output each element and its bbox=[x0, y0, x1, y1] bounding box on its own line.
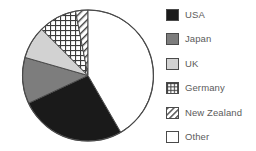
legend-item-japan[interactable]: Japan bbox=[166, 32, 256, 46]
legend-label-usa: USA bbox=[185, 9, 205, 21]
diagonal-hatch-swatch bbox=[166, 107, 179, 119]
pie-slices-group bbox=[23, 10, 154, 141]
pie-chart-svg bbox=[0, 0, 160, 151]
grid-dots-swatch bbox=[166, 82, 179, 94]
solid-light-gray-swatch bbox=[166, 58, 179, 70]
legend-label-new-zealand: New Zealand bbox=[185, 107, 242, 119]
grid-dots-pattern-icon bbox=[167, 83, 179, 94]
legend-item-germany[interactable]: Germany bbox=[166, 81, 256, 95]
chart-legend: USA Japan UK Germany New Zealand bbox=[166, 8, 256, 144]
legend-label-other: Other bbox=[185, 131, 209, 143]
legend-label-uk: UK bbox=[185, 58, 198, 70]
solid-white-swatch bbox=[166, 131, 179, 143]
legend-item-new-zealand[interactable]: New Zealand bbox=[166, 106, 256, 120]
pie-chart-figure: USA Japan UK Germany New Zealand bbox=[0, 0, 256, 151]
pie-chart-plot-area bbox=[0, 0, 160, 151]
solid-gray-swatch bbox=[166, 33, 179, 45]
legend-label-japan: Japan bbox=[185, 33, 211, 45]
solid-black-swatch bbox=[166, 9, 179, 21]
legend-item-usa[interactable]: USA bbox=[166, 8, 256, 22]
diagonal-hatch-pattern-icon bbox=[167, 108, 179, 119]
legend-item-other[interactable]: Other bbox=[166, 130, 256, 144]
legend-item-uk[interactable]: UK bbox=[166, 57, 256, 71]
legend-label-germany: Germany bbox=[185, 82, 225, 94]
